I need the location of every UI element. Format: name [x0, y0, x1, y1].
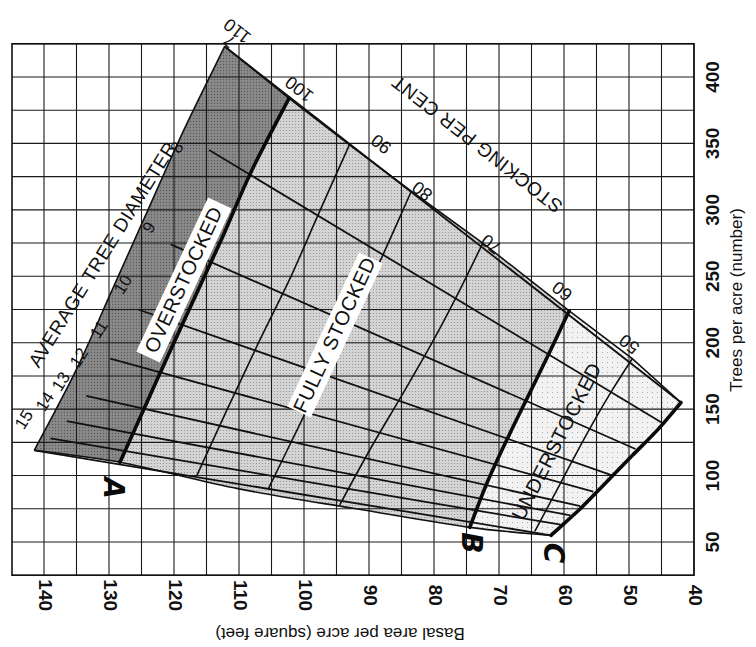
y-tick-label: 50 [702, 531, 723, 552]
diameter-label-14: 14 [32, 388, 58, 414]
x-tick-label: 80 [425, 585, 446, 606]
x-tick-label: 100 [295, 579, 316, 611]
x-tick-label: 120 [165, 579, 186, 611]
stocking-chart: 140130120110100908070605040 501001502002… [0, 0, 756, 647]
y-axis-title: Trees per acre (number) [727, 208, 746, 392]
x-tick-label: 60 [555, 585, 576, 606]
x-axis-title: Basal area per acre (square feet) [215, 624, 464, 643]
y-tick-label: 100 [702, 460, 723, 492]
y-tick-label: 250 [702, 260, 723, 292]
x-tick-label: 130 [100, 579, 121, 611]
x-tick-label: 90 [360, 585, 381, 606]
curve-letter-a: A [97, 475, 130, 499]
y-tick-label: 350 [702, 128, 723, 160]
x-tick-label: 110 [230, 580, 251, 611]
curve-letter-b: B [455, 532, 488, 553]
curve-letter-c: C [537, 543, 570, 564]
x-tick-label: 140 [35, 579, 56, 611]
x-tick-label: 50 [620, 585, 641, 606]
y-axis-ticks: 50100150200250300350400 [702, 61, 723, 552]
x-tick-label: 70 [490, 585, 511, 606]
y-tick-label: 400 [702, 61, 723, 93]
y-tick-label: 200 [702, 327, 723, 359]
diameter-label-15: 15 [11, 406, 37, 432]
x-axis-ticks: 140130120110100908070605040 [35, 579, 706, 611]
y-tick-label: 150 [702, 393, 723, 425]
y-tick-label: 300 [702, 194, 723, 226]
x-tick-label: 40 [685, 585, 706, 606]
stocking-label-90: 90 [367, 130, 395, 158]
